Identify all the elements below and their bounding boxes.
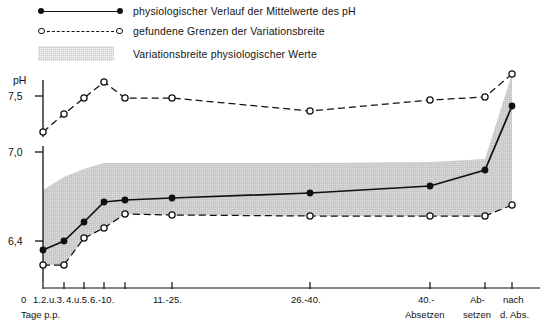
y-tick-label-7-0: 7,0: [8, 146, 23, 158]
x-tick-label-4: 6.-10.: [90, 294, 114, 305]
x-tick-label-7: 40.-: [418, 294, 434, 305]
y-axis-label: pH: [13, 74, 26, 86]
x-tick-label-5: 11.-25.: [153, 294, 182, 305]
x-tick-label-7b: Absetzen: [405, 309, 445, 320]
x-tick-label-8b: setzen: [463, 309, 491, 320]
x-tick-label-0: 0: [21, 294, 26, 305]
x-axis-label: Tage p.p.: [21, 309, 60, 320]
chart-svg: pH 7,5 7,0 6,4 0 1. 2.u.3. 4.u: [0, 0, 544, 331]
chart-figure: physiologischer Verlauf der Mittelwerte …: [0, 0, 544, 331]
x-tick-label-1: 1.: [33, 294, 41, 305]
x-tick-label-9: nach: [503, 294, 524, 305]
y-tick-label-7-5: 7,5: [8, 90, 23, 102]
x-tick-label-2: 2.u.3.: [41, 294, 65, 305]
y-tick-label-6-4: 6,4: [8, 235, 23, 247]
variation-band-texture: [43, 74, 512, 265]
x-tick-label-9b: d. Abs.: [500, 309, 529, 320]
series-upper-limit-line: [43, 74, 512, 132]
chart-plot-area: pH 7,5 7,0 6,4 0 1. 2.u.3. 4.u: [0, 0, 544, 331]
x-tick-label-6: 26.-40.: [291, 294, 321, 305]
x-tick-label-8: Ab-: [470, 294, 485, 305]
x-tick-label-3: 4.u.5.: [66, 294, 90, 305]
series-upper-limit-markers: [40, 71, 515, 135]
